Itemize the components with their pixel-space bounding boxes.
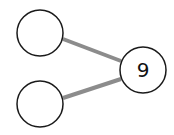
part-circle-bottom bbox=[17, 81, 63, 127]
number-bond-diagram: 9 bbox=[0, 0, 174, 135]
part-circle-top bbox=[17, 10, 63, 56]
connector-bottom bbox=[63, 79, 121, 98]
whole-value: 9 bbox=[137, 58, 150, 82]
connector-top bbox=[63, 39, 121, 61]
